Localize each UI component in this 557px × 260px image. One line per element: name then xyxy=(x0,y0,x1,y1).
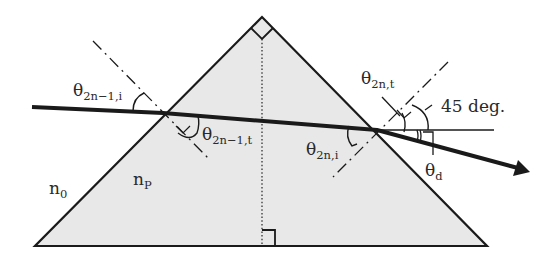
prism-refraction-diagram: θ2n−1,i θ2n−1,t θ2n,i θ2n,t 45 deg. θd n… xyxy=(0,0,557,260)
label-45-deg: 45 deg. xyxy=(441,96,505,116)
angle-45-leader xyxy=(425,105,432,110)
label-theta-2n-t: θ2n,t xyxy=(361,68,395,91)
angle-arc-left-incident xyxy=(133,93,144,111)
label-theta-d: θd xyxy=(425,160,443,183)
ray-arrowhead-icon xyxy=(513,160,530,176)
angle-arc-double-2 xyxy=(420,130,421,142)
label-n-0: n0 xyxy=(49,178,67,201)
prism xyxy=(35,17,487,246)
right-face-tick xyxy=(382,97,400,116)
label-theta-2n-1-i: θ2n−1,i xyxy=(73,80,123,103)
angle-arc-double-1 xyxy=(417,130,418,141)
